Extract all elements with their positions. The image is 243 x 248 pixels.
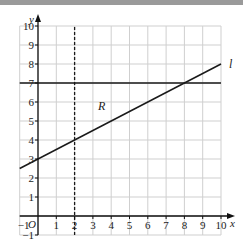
tick-labels: 1234567891012345678910 [23, 20, 227, 231]
y-tick-label: 9 [29, 39, 35, 51]
x-tick-label: 3 [90, 219, 96, 231]
x-tick-label: 1 [54, 219, 60, 231]
region-r-label: R [97, 99, 106, 113]
line-l [20, 64, 221, 169]
y-tick-label: 5 [29, 115, 35, 127]
coordinate-graph: 1234567891012345678910 x y O l R −1 −1 [0, 0, 243, 248]
y-axis-arrow-icon [35, 14, 41, 22]
grid-lines [20, 26, 221, 235]
y-tick-label: 2 [29, 172, 35, 184]
x-tick-label: 6 [145, 219, 151, 231]
x-tick-label: 4 [108, 219, 114, 231]
x-tick-label: 2 [72, 219, 78, 231]
y-tick-neg1: −1 [22, 229, 34, 241]
y-axis-label: y [28, 13, 34, 25]
y-tick-label: 6 [29, 96, 35, 108]
y-tick-label: 1 [29, 191, 35, 203]
x-tick-label: 8 [182, 219, 188, 231]
x-axis-label: x [229, 217, 235, 229]
y-tick-label: 4 [29, 134, 35, 146]
x-tick-label: 5 [127, 219, 133, 231]
y-tick-label: 7 [29, 77, 35, 89]
x-tick-label: 7 [163, 219, 169, 231]
plot-lines [20, 26, 221, 235]
y-tick-label: 8 [29, 58, 35, 70]
x-tick-label: 9 [200, 219, 206, 231]
x-tick-label: 10 [216, 219, 228, 231]
y-tick-label: 3 [29, 153, 35, 165]
line-l-label: l [229, 57, 233, 71]
